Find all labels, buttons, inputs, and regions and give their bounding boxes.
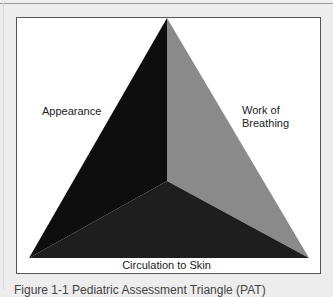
label-appearance: Appearance: [42, 105, 101, 118]
label-circulation-to-skin: Circulation to Skin: [0, 259, 333, 272]
label-work-of-breathing-line2: Breathing: [242, 117, 289, 130]
figure-caption: Figure 1-1 Pediatric Assessment Triangle…: [14, 283, 266, 297]
label-work-of-breathing-line1: Work of: [242, 104, 289, 117]
label-work-of-breathing: Work of Breathing: [242, 104, 289, 130]
